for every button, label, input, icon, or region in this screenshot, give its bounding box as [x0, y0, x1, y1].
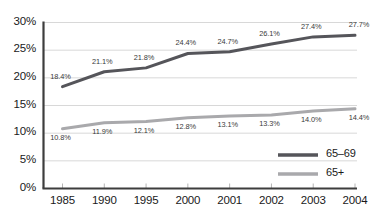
- chart-plot-area: [0, 0, 381, 218]
- data-point-label: 21.1%: [85, 57, 119, 66]
- data-point-label: 11.9%: [85, 127, 119, 136]
- data-point-label: 13.3%: [252, 119, 286, 128]
- data-point-label: 24.4%: [169, 38, 203, 47]
- data-point-label: 13.1%: [211, 120, 245, 129]
- data-point-label: 21.8%: [127, 53, 161, 62]
- legend-label-0: 65–69: [326, 147, 356, 159]
- line-chart: 0%5%10%15%20%25%30% 19851990199520002001…: [0, 0, 381, 218]
- data-point-label: 12.1%: [127, 126, 161, 135]
- legend-label-1: 65+: [326, 166, 344, 178]
- data-point-label: 14.0%: [294, 115, 328, 124]
- data-point-label: 27.4%: [294, 22, 328, 31]
- data-point-label: 24.7%: [211, 37, 245, 46]
- x-axis-tick-label: 1990: [82, 194, 126, 206]
- data-point-label: 18.4%: [44, 72, 78, 81]
- y-axis-tick-label: 25%: [0, 42, 36, 54]
- y-axis-tick-label: 30%: [0, 15, 36, 27]
- y-axis-tick-label: 10%: [0, 125, 36, 137]
- legend-swatches: [278, 155, 318, 174]
- data-point-label: 14.4%: [342, 113, 376, 122]
- x-axis-tick-label: 2002: [249, 194, 293, 206]
- y-axis-tick-label: 20%: [0, 70, 36, 82]
- x-axis-tick-label: 1995: [124, 194, 168, 206]
- data-point-label: 12.8%: [169, 122, 203, 131]
- y-axis-tick-label: 15%: [0, 98, 36, 110]
- y-axis-tick-label: 5%: [0, 153, 36, 165]
- x-axis-tick-label: 2000: [166, 194, 210, 206]
- y-axis-tick-label: 0%: [0, 181, 36, 193]
- x-axis-tick-label: 2004: [333, 194, 377, 206]
- data-point-label: 27.7%: [342, 20, 376, 29]
- x-axis-tick-label: 1985: [41, 194, 85, 206]
- data-point-label: 10.8%: [44, 133, 78, 142]
- data-point-label: 26.1%: [252, 29, 286, 38]
- x-axis-tick-label: 2001: [208, 194, 252, 206]
- x-axis-tick-label: 2003: [291, 194, 335, 206]
